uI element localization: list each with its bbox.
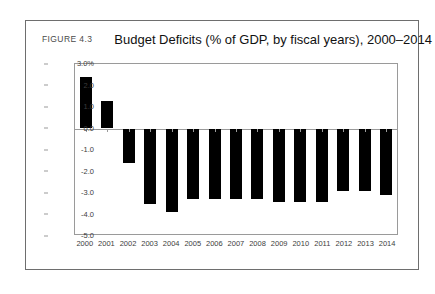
bar [316, 129, 328, 202]
x-axis-tick-mark [129, 129, 130, 132]
chart-plot-area [74, 63, 398, 235]
x-axis-tick-label: 2006 [204, 239, 226, 248]
bar-slot [118, 64, 139, 234]
figure-header: FIGURE 4.3 Budget Deficits (% of GDP, by… [26, 21, 418, 57]
bar [144, 129, 156, 204]
bar-slot [139, 64, 160, 234]
x-axis-tick-mark [279, 129, 280, 132]
x-axis-tick-label: 2011 [312, 239, 334, 248]
x-axis-tick-label: 2009 [268, 239, 290, 248]
x-axis-tick-mark [150, 129, 151, 132]
bar-slot [204, 64, 225, 234]
bar [294, 129, 306, 202]
x-axis-tick-label: 2012 [333, 239, 355, 248]
y-axis-tick-mark [44, 214, 48, 215]
figure-page: Source: U.S. Treasury, CSFB FIGURE 4.3 B… [0, 0, 435, 294]
bar-slot [225, 64, 246, 234]
figure-container: FIGURE 4.3 Budget Deficits (% of GDP, by… [25, 20, 419, 270]
x-axis-tick-mark [215, 129, 216, 132]
bar [273, 129, 285, 202]
x-axis-tick-mark [257, 129, 258, 132]
x-axis-tick-label: 2014 [376, 239, 398, 248]
x-axis-tick-mark [386, 129, 387, 132]
bar-slot [311, 64, 332, 234]
y-axis-tick-mark [44, 85, 48, 86]
bar [380, 129, 392, 196]
y-axis-tick-label: 3.0% [48, 59, 94, 68]
y-axis-tick-label: 0.0 [48, 123, 94, 132]
bar-slot [96, 64, 117, 234]
x-axis-tick-label: 2007 [225, 239, 247, 248]
x-axis-tick-label: 2001 [96, 239, 118, 248]
x-axis-tick-mark [322, 129, 323, 132]
bar [187, 129, 199, 200]
bar-series [75, 64, 397, 234]
x-axis-tick-label: 2010 [290, 239, 312, 248]
x-axis-tick-label: 2000 [74, 239, 96, 248]
bar [166, 129, 178, 213]
y-axis-tick-label: -2.0 [48, 166, 94, 175]
x-axis-tick-mark [300, 129, 301, 132]
bar-slot [182, 64, 203, 234]
x-axis-tick-mark [343, 129, 344, 132]
x-axis-tick-mark [236, 129, 237, 132]
bar-slot [161, 64, 182, 234]
bar-slot [290, 64, 311, 234]
bar [337, 129, 349, 191]
y-axis-tick-mark [44, 171, 48, 172]
bar-slot [333, 64, 354, 234]
y-axis-tick-label: 1.0 [48, 102, 94, 111]
bar-slot [247, 64, 268, 234]
x-axis-tick-mark [193, 129, 194, 132]
x-axis-labels: 2000200120022003200420052006200720082009… [74, 239, 398, 248]
x-axis-tick-label: 2008 [247, 239, 269, 248]
bar-slot [268, 64, 289, 234]
x-axis-tick-label: 2002 [117, 239, 139, 248]
figure-title: Budget Deficits (% of GDP, by fiscal yea… [114, 32, 432, 47]
bar-slot [376, 64, 397, 234]
x-axis-tick-label: 2004 [160, 239, 182, 248]
y-axis-tick-mark [44, 192, 48, 193]
figure-label: FIGURE 4.3 [42, 34, 92, 44]
x-axis-tick-label: 2003 [139, 239, 161, 248]
y-axis-tick-mark [44, 128, 48, 129]
bar-slot [354, 64, 375, 234]
x-axis-tick-mark [365, 129, 366, 132]
x-axis-tick-label: 2005 [182, 239, 204, 248]
bar [123, 129, 135, 163]
y-axis-tick-label: -3.0 [48, 188, 94, 197]
y-axis-tick-mark [44, 63, 48, 64]
chart-plot-wrapper: 3.0%2.01.00.0-1.0-2.0-3.0-4.0-5.0 200020… [26, 57, 420, 269]
y-axis-tick-mark [44, 149, 48, 150]
x-axis-tick-mark [107, 129, 108, 132]
y-axis-tick-label: 2.0 [48, 80, 94, 89]
bar [359, 129, 371, 191]
bar [209, 129, 221, 200]
y-axis-tick-label: -1.0 [48, 145, 94, 154]
bar [230, 129, 242, 200]
x-axis-tick-label: 2013 [355, 239, 377, 248]
y-axis-tick-mark [44, 235, 48, 236]
bar [251, 129, 263, 200]
bar [101, 101, 113, 129]
y-axis-tick-mark [44, 106, 48, 107]
x-axis-tick-mark [172, 129, 173, 132]
y-axis-tick-label: -4.0 [48, 209, 94, 218]
